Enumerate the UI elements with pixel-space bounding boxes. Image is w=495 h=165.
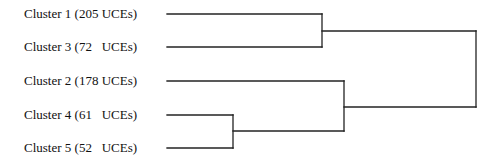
dendrogram-branches — [0, 0, 495, 165]
dendrogram: Cluster 1 (205 UCEs) Cluster 3 (72 UCEs)… — [0, 0, 495, 165]
